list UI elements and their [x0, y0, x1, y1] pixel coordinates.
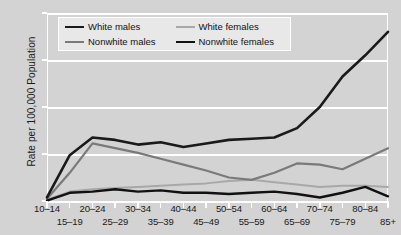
legend-label-white-males: White males	[88, 22, 140, 32]
legend-label-nonwhite-females: Nonwhite females	[199, 37, 275, 47]
x-tick-mark	[387, 201, 389, 208]
legend-swatch-nonwhite-males	[65, 41, 84, 43]
x-tick-mark	[296, 201, 298, 208]
series-line	[47, 32, 388, 198]
x-tick-mark	[160, 201, 162, 208]
legend-swatch-white-males	[65, 26, 84, 28]
x-tick-label: 20–24	[79, 203, 105, 214]
x-tick-label: 55–59	[239, 216, 265, 227]
legend-entry-nonwhite-males: Nonwhite males	[65, 37, 176, 47]
x-tick-label: 25–29	[102, 216, 128, 227]
x-tick-label: 75–79	[330, 216, 356, 227]
legend-entry-white-females: White females	[176, 22, 287, 32]
x-tick-label: 30–34	[125, 203, 151, 214]
legend-swatch-white-females	[176, 26, 195, 28]
legend-swatch-nonwhite-females	[176, 41, 195, 43]
x-tick-label: 35–39	[148, 216, 174, 227]
series-line	[47, 180, 388, 200]
line-chart: Rate per 100,000 Population 020406080 Wh…	[0, 0, 401, 235]
legend-label-nonwhite-males: Nonwhite males	[88, 37, 156, 47]
legend-entry-nonwhite-females: Nonwhite females	[176, 37, 287, 47]
x-tick-label: 10–14	[34, 203, 60, 214]
x-tick-label: 50–54	[216, 203, 242, 214]
x-tick-label: 45–49	[193, 216, 219, 227]
x-tick-label: 85+	[380, 216, 396, 227]
x-tick-label: 80–84	[352, 203, 378, 214]
x-tick-label: 40–44	[170, 203, 196, 214]
x-tick-mark	[69, 201, 71, 208]
x-tick-label: 65–69	[284, 216, 310, 227]
x-tick-mark	[114, 201, 116, 208]
legend-entry-white-males: White males	[65, 22, 176, 32]
x-tick-mark	[251, 201, 253, 208]
chart-legend: White males White females Nonwhite males…	[58, 17, 291, 51]
legend-label-white-females: White females	[199, 22, 259, 32]
x-tick-mark	[205, 201, 207, 208]
x-tick-mark	[342, 201, 344, 208]
x-tick-label: 60–64	[261, 203, 287, 214]
x-tick-label: 15–19	[57, 216, 83, 227]
x-tick-label: 70–74	[307, 203, 333, 214]
